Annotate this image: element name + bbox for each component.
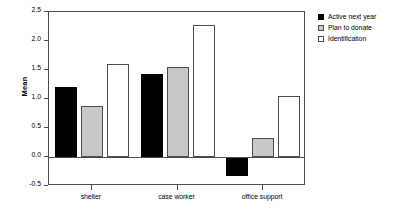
bar-chart: Mean 2.52.01.51.00.50.0-0.5 sheltercase … <box>0 0 404 217</box>
bar <box>81 106 103 157</box>
bar <box>107 64 129 157</box>
y-axis-tick-label: -0.5 <box>29 180 41 187</box>
legend-swatch-icon <box>318 25 324 31</box>
chart-legend: Active next yearPlan to donateIdentifica… <box>318 12 402 45</box>
x-axis-tick-mark <box>177 185 178 190</box>
legend-swatch-icon <box>318 14 324 20</box>
x-axis-tick-mark <box>262 185 263 190</box>
x-axis-tick-mark <box>91 185 92 190</box>
y-axis-tick-label: 1.0 <box>32 93 41 100</box>
y-axis-tick-label: 1.5 <box>32 64 41 71</box>
bar <box>226 157 248 176</box>
zero-baseline <box>49 157 304 158</box>
legend-swatch-icon <box>318 36 324 42</box>
x-axis-tick-label: office support <box>212 193 312 200</box>
legend-label: Identification <box>328 35 366 43</box>
legend-label: Plan to donate <box>328 24 372 32</box>
y-axis-tick-label: 0.0 <box>32 151 41 158</box>
y-axis-label: Mean <box>20 57 29 117</box>
legend-label: Active next year <box>328 13 376 21</box>
y-axis-tick-label: 2.0 <box>32 35 41 42</box>
bar <box>141 74 163 157</box>
plot-area <box>48 11 305 185</box>
bar <box>193 25 215 157</box>
legend-item: Plan to donate <box>318 23 402 32</box>
bar <box>167 67 189 157</box>
bar <box>55 87 77 157</box>
legend-item: Active next year <box>318 12 402 21</box>
y-axis-tick-label: 0.5 <box>32 122 41 129</box>
bar <box>278 96 300 157</box>
y-axis-tick-mark <box>44 185 48 186</box>
y-axis-tick-label: 2.5 <box>32 6 41 13</box>
legend-item: Identification <box>318 34 402 43</box>
bar <box>252 138 274 157</box>
